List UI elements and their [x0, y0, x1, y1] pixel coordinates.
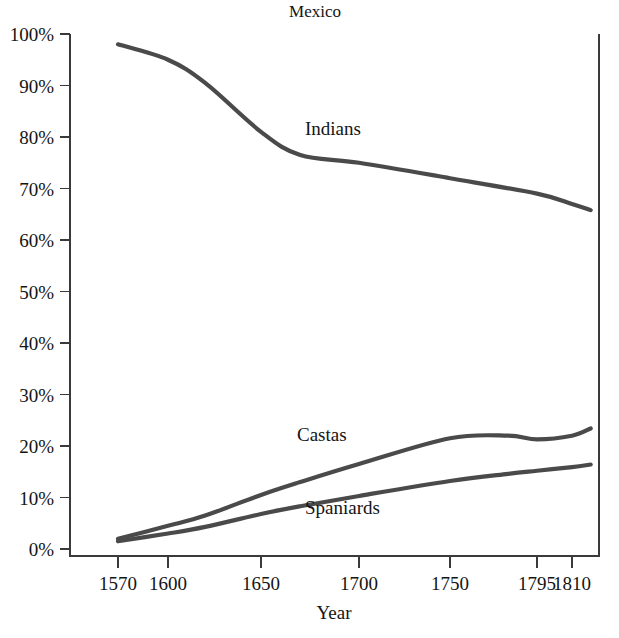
- x-tick-label-1750: 1750: [431, 573, 469, 594]
- series-label-castas: Castas: [297, 424, 347, 445]
- y-tick-label-0%: 0%: [29, 539, 55, 560]
- y-tick-label-80%: 80%: [19, 127, 54, 148]
- y-tick-label-90%: 90%: [19, 76, 54, 97]
- x-axis-tick-labels: 1570160016501700175017951810: [99, 573, 591, 594]
- y-tick-label-30%: 30%: [19, 385, 54, 406]
- x-tick-label-1700: 1700: [340, 573, 378, 594]
- series-inline-labels: IndiansCastasSpaniards: [297, 118, 380, 518]
- y-axis-tick-labels: 0%10%20%30%40%50%60%70%80%90%100%: [10, 24, 55, 560]
- x-tick-label-1650: 1650: [242, 573, 280, 594]
- series-line-castas: [118, 428, 591, 538]
- y-tick-label-70%: 70%: [19, 179, 54, 200]
- y-tick-label-100%: 100%: [10, 24, 55, 45]
- axis-frame: [70, 34, 599, 556]
- x-axis-ticks: [118, 556, 572, 568]
- chart-container: Mexico 0%10%20%30%40%50%60%70%80%90%100%…: [0, 0, 619, 638]
- series-label-indians: Indians: [305, 118, 361, 139]
- y-tick-label-20%: 20%: [19, 436, 54, 457]
- chart-title: Mexico: [289, 2, 341, 21]
- y-tick-label-60%: 60%: [19, 230, 54, 251]
- series-label-spaniards: Spaniards: [305, 497, 380, 518]
- y-tick-label-10%: 10%: [19, 488, 54, 509]
- y-tick-label-50%: 50%: [19, 282, 54, 303]
- x-tick-label-1795: 1795: [518, 573, 556, 594]
- x-axis-title: Year: [316, 602, 352, 623]
- x-tick-label-1810: 1810: [553, 573, 591, 594]
- plot-frame: [70, 34, 599, 556]
- x-tick-label-1600: 1600: [149, 573, 187, 594]
- line-chart: Mexico 0%10%20%30%40%50%60%70%80%90%100%…: [0, 0, 619, 638]
- y-axis-ticks: [60, 34, 70, 549]
- x-tick-label-1570: 1570: [99, 573, 137, 594]
- y-tick-label-40%: 40%: [19, 333, 54, 354]
